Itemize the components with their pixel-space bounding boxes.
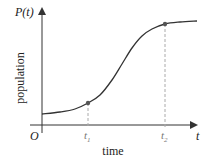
x-axis-title: t (196, 129, 200, 143)
logistic-chart: P(t) t O t1 t2 time population (0, 0, 207, 163)
point-t1 (86, 101, 90, 105)
point-t2 (163, 22, 167, 26)
x-axis-label: time (102, 144, 123, 158)
origin-label: O (30, 129, 39, 143)
y-axis-label: population (13, 52, 27, 103)
tick-t2: t2 (161, 129, 168, 144)
y-axis-title: P(t) (14, 5, 34, 19)
population-curve (42, 21, 197, 114)
tick-t1: t1 (84, 129, 91, 144)
